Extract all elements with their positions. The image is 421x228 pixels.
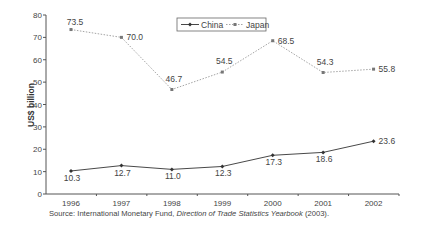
data-label: 12.7 bbox=[114, 168, 131, 178]
data-point-marker bbox=[221, 71, 224, 74]
data-point-marker bbox=[271, 39, 274, 42]
data-label: 70.0 bbox=[126, 32, 143, 42]
data-label: 23.6 bbox=[379, 136, 396, 146]
data-point-marker bbox=[170, 88, 173, 91]
x-tick-label: 1998 bbox=[163, 199, 181, 208]
data-label: 17.3 bbox=[265, 157, 282, 167]
y-tick-label: 60 bbox=[33, 56, 42, 65]
y-axis-title: US$ billion bbox=[26, 83, 36, 127]
line-chart: 0102030405060708019961997199819992000200… bbox=[0, 0, 421, 228]
data-label: 12.3 bbox=[215, 168, 232, 178]
data-point-marker bbox=[372, 139, 376, 143]
source-prefix: Source: International Monetary Fund, bbox=[49, 209, 176, 218]
legend-japan-marker bbox=[234, 23, 237, 26]
data-label: 54.5 bbox=[216, 56, 233, 66]
y-tick-label: 80 bbox=[33, 11, 42, 20]
x-tick-label: 2002 bbox=[365, 199, 383, 208]
source-title: Direction of Trade Statistics Yearbook bbox=[176, 209, 302, 218]
x-tick-label: 1996 bbox=[62, 199, 80, 208]
series-china: 10.312.711.012.317.318.623.6 bbox=[64, 136, 396, 183]
x-tick-label: 2000 bbox=[264, 199, 282, 208]
x-tick-label: 1999 bbox=[213, 199, 231, 208]
legend: ChinaJapan bbox=[177, 18, 269, 31]
data-point-marker bbox=[120, 36, 123, 39]
data-label: 11.0 bbox=[165, 171, 181, 181]
data-label: 55.8 bbox=[379, 64, 396, 74]
y-tick-label: 0 bbox=[38, 190, 43, 199]
x-tick-label: 2001 bbox=[314, 199, 332, 208]
data-label: 73.5 bbox=[67, 17, 84, 27]
data-point-marker bbox=[322, 71, 325, 74]
legend-china-label: China bbox=[201, 20, 223, 30]
y-tick-label: 10 bbox=[33, 168, 42, 177]
data-label: 18.6 bbox=[316, 154, 333, 164]
x-tick-label: 1997 bbox=[113, 199, 131, 208]
data-label: 54.3 bbox=[317, 57, 334, 67]
data-label: 46.7 bbox=[166, 74, 183, 84]
data-label: 10.3 bbox=[64, 173, 81, 183]
source-note: Source: International Monetary Fund, Dir… bbox=[49, 209, 329, 218]
source-suffix: (2003). bbox=[303, 209, 329, 218]
y-tick-label: 70 bbox=[33, 33, 42, 42]
legend-japan-label: Japan bbox=[246, 20, 269, 30]
data-point-marker bbox=[372, 68, 375, 71]
data-point-marker bbox=[70, 28, 73, 31]
data-label: 68.5 bbox=[278, 36, 295, 46]
y-tick-label: 20 bbox=[33, 145, 42, 154]
